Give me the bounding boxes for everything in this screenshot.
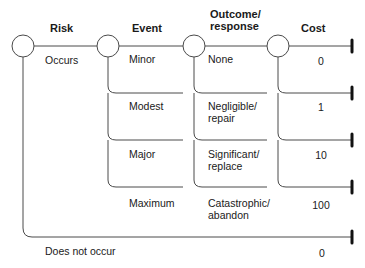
cost-modest: 1 bbox=[306, 101, 336, 113]
label-occurs: Occurs bbox=[45, 54, 78, 66]
risk-does-not-occur-line bbox=[23, 57, 352, 237]
cost-major: 10 bbox=[306, 149, 336, 161]
outcome-significant: Significant/ replace bbox=[208, 148, 259, 172]
outcome-none: None bbox=[208, 53, 233, 65]
cost-does-not-occur: 0 bbox=[307, 247, 337, 259]
header-event: Event bbox=[132, 22, 162, 34]
risk-node-icon bbox=[12, 35, 34, 57]
outcome-node-icon bbox=[183, 35, 205, 57]
decision-tree-graphic bbox=[0, 0, 365, 268]
cost-maximum: 100 bbox=[306, 199, 336, 211]
event-node-icon bbox=[97, 35, 119, 57]
event-modest: Modest bbox=[129, 100, 163, 112]
cost-minor: 0 bbox=[306, 55, 336, 67]
outcome-catastrophic: Catastrophic/ abandon bbox=[208, 197, 270, 221]
header-outcome: Outcome/ response bbox=[210, 8, 261, 32]
header-cost: Cost bbox=[301, 22, 325, 34]
outcome-negligible: Negligible/ repair bbox=[208, 100, 257, 124]
event-maximum: Maximum bbox=[129, 197, 175, 209]
event-minor: Minor bbox=[129, 53, 155, 65]
cost-100-branch bbox=[278, 140, 352, 187]
header-risk: Risk bbox=[50, 22, 73, 34]
cost-node-icon bbox=[267, 35, 289, 57]
label-does-not-occur: Does not occur bbox=[45, 245, 116, 257]
event-major: Major bbox=[129, 148, 155, 160]
